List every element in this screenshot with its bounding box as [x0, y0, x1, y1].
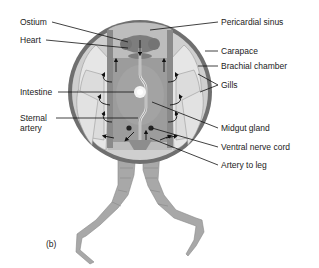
label-carapace: Carapace — [221, 46, 258, 56]
label-gills: Gills — [221, 80, 238, 90]
left-leg — [76, 150, 136, 264]
legs — [76, 150, 204, 264]
right-body-wall — [167, 30, 173, 148]
label-heart: Heart — [20, 35, 41, 45]
label-brachial-chamber: Brachial chamber — [221, 61, 287, 71]
crustacean-cross-section-diagram — [0, 0, 319, 268]
label-ostium: Ostium — [20, 17, 47, 27]
label-intestine: Intestine — [20, 87, 52, 97]
left-body-wall — [107, 30, 113, 148]
label-ventral-nerve-cord: Ventral nerve cord — [221, 142, 290, 152]
label-sternal-artery-line2: artery — [20, 123, 42, 133]
right-leg — [143, 150, 204, 256]
label-midgut-gland: Midgut gland — [221, 123, 270, 133]
label-pericardial-sinus: Pericardial sinus — [221, 17, 283, 27]
label-sternal-artery-line1: Sternal — [20, 113, 47, 123]
label-artery-to-leg: Artery to leg — [221, 160, 267, 170]
panel-label: (b) — [46, 239, 56, 249]
artery-to-leg-left — [126, 125, 131, 130]
